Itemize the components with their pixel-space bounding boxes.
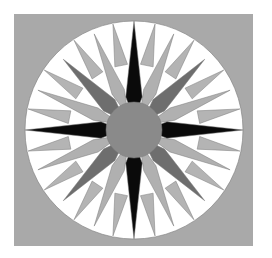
mariners-compass-quilt [0, 0, 272, 258]
center-circle [106, 102, 162, 158]
